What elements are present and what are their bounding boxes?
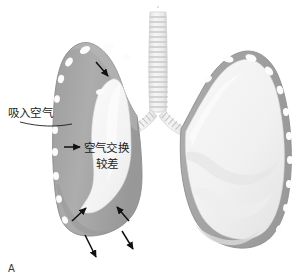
panel-letter: A: [8, 263, 15, 274]
poor-air-exchange-label-line1: 空气交换: [84, 141, 130, 155]
poor-air-exchange-label-line2: 较差: [96, 157, 118, 171]
figure-root: 吸入空气 空气交换 较差 A: [0, 0, 308, 279]
nodule: [287, 156, 293, 164]
inhaled-air-label: 吸入空气: [8, 106, 54, 120]
lung-illustration-svg: 吸入空气 空气交换 较差 A: [0, 0, 308, 279]
trachea: [149, 6, 167, 112]
nodule: [52, 148, 58, 156]
trachea-top-marker: [157, 6, 159, 8]
